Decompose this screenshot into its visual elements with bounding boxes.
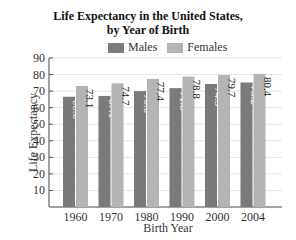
- bar-value-label: 73.1: [84, 89, 96, 108]
- chart-container: Life Expectancy in the United States, by…: [0, 0, 296, 240]
- bar-value-label: 79.7: [226, 78, 238, 98]
- y-tick-label: 90: [33, 51, 45, 65]
- y-tick-label: 10: [33, 183, 45, 197]
- bar-value-label: 74.7: [120, 86, 132, 106]
- x-axis-label: Birth Year: [0, 221, 296, 236]
- bar-value-label: 80.4: [262, 77, 274, 97]
- bar-value-label: 77.4: [155, 82, 167, 102]
- y-axis-label: Life Expectancy: [26, 88, 41, 178]
- plot-area: 10203040506070809066.673.1196067.174.719…: [0, 0, 296, 240]
- y-tick-label: 80: [33, 68, 45, 82]
- bar-value-label: 78.8: [191, 80, 203, 100]
